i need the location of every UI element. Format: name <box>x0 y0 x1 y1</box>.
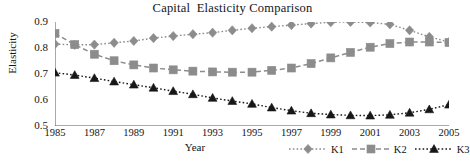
data-point <box>228 68 236 76</box>
data-point <box>110 38 118 47</box>
data-point <box>248 68 256 76</box>
data-point <box>149 34 157 43</box>
data-point <box>366 22 374 27</box>
data-point <box>130 61 138 69</box>
data-point <box>169 31 177 40</box>
data-point <box>90 40 98 49</box>
data-point <box>386 22 394 29</box>
data-point <box>445 100 449 108</box>
y-tick-label: 0.6 <box>18 93 48 105</box>
data-point <box>366 43 374 51</box>
x-axis-label: Year <box>150 141 240 153</box>
x-tick-label: 2005 <box>429 127 469 138</box>
data-point <box>208 28 216 37</box>
data-point <box>386 40 394 48</box>
plot-area <box>55 22 449 126</box>
data-point <box>346 111 355 119</box>
data-point <box>287 22 295 30</box>
plot-svg <box>55 22 449 126</box>
x-tick-label: 1987 <box>74 127 114 138</box>
data-point <box>55 68 59 76</box>
legend-label: K2 <box>393 144 407 155</box>
legend-diamond-icon <box>288 143 328 155</box>
chart-legend: K1K2K3 <box>288 143 470 155</box>
data-point <box>307 22 315 28</box>
y-tick-label: 0.9 <box>18 15 48 27</box>
data-point <box>189 67 197 75</box>
data-point <box>327 54 335 62</box>
data-point <box>189 30 197 39</box>
data-point <box>209 68 217 76</box>
data-point <box>287 64 295 72</box>
data-point <box>248 100 257 108</box>
legend-square-icon <box>351 143 391 155</box>
data-point <box>110 77 119 85</box>
chart-title: Capital Elasticity Comparison <box>0 1 465 16</box>
x-tick-label: 1997 <box>271 127 311 138</box>
data-point <box>307 60 315 68</box>
data-point <box>228 97 237 105</box>
y-tick-label: 0.7 <box>18 67 48 79</box>
data-point <box>425 38 433 46</box>
data-point <box>90 74 99 82</box>
data-point <box>445 39 449 47</box>
series-k2 <box>55 29 449 76</box>
data-point <box>248 24 256 33</box>
data-point <box>130 36 138 45</box>
data-point <box>268 22 276 31</box>
x-tick-label: 1993 <box>193 127 233 138</box>
data-point <box>406 38 414 46</box>
data-point <box>169 87 178 95</box>
y-tick-label: 0.8 <box>18 41 48 53</box>
data-point <box>150 64 158 72</box>
legend-triangle-icon <box>414 143 454 155</box>
x-tick-label: 2001 <box>350 127 390 138</box>
x-tick-label: 1999 <box>311 127 351 138</box>
data-point <box>110 57 118 65</box>
legend-item-k3[interactable]: K3 <box>414 143 470 155</box>
data-point <box>307 109 316 117</box>
data-point <box>169 66 177 74</box>
legend-label: K3 <box>456 144 470 155</box>
x-tick-label: 1989 <box>114 127 154 138</box>
y-axis-label: Elasticity <box>6 17 18 89</box>
data-point <box>55 40 59 49</box>
x-tick-label: 1995 <box>232 127 272 138</box>
x-tick-label: 1991 <box>153 127 193 138</box>
data-point <box>71 41 79 49</box>
x-tick-label: 1985 <box>35 127 75 138</box>
x-tick-label: 2003 <box>390 127 430 138</box>
data-point <box>228 26 236 35</box>
legend-label: K1 <box>330 144 344 155</box>
data-point <box>405 26 413 35</box>
data-point <box>347 48 355 56</box>
legend-item-k2[interactable]: K2 <box>351 143 407 155</box>
data-point <box>268 66 276 74</box>
data-point <box>267 103 276 111</box>
data-point <box>327 22 335 27</box>
data-point <box>90 50 98 58</box>
data-point <box>55 29 59 37</box>
legend-item-k1[interactable]: K1 <box>288 143 344 155</box>
data-point <box>189 90 198 98</box>
data-point <box>346 22 354 27</box>
